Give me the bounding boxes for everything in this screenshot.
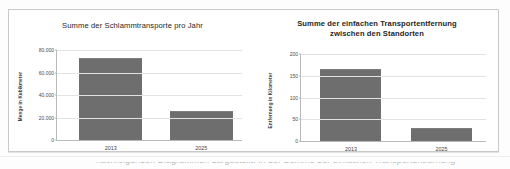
y-axis-tick-label: 200 xyxy=(290,51,298,57)
y-axis-tickmark xyxy=(55,50,57,51)
gridline xyxy=(57,73,242,74)
y-axis-tick-label: 40.000 xyxy=(39,92,54,98)
plot-area-schlammtransporte: 020.00040.00060.00080.00020132025 xyxy=(56,50,242,141)
gridline xyxy=(57,95,242,96)
gridline xyxy=(57,118,242,119)
scan-separator-line xyxy=(0,156,510,157)
bar-2013 xyxy=(320,69,381,141)
gridline xyxy=(301,54,486,55)
gridline xyxy=(57,50,242,51)
y-axis-tickmark xyxy=(55,95,57,96)
x-axis-category-label: 2025 xyxy=(436,146,448,152)
x-axis-category-label: 2013 xyxy=(105,145,117,151)
y-axis-tickmark xyxy=(55,117,57,118)
y-axis-tick-label: 0 xyxy=(295,138,298,144)
y-axis-tickmark xyxy=(299,97,301,98)
y-axis-tickmark xyxy=(299,54,301,55)
charts-row: Summe der Schlammtransporte pro Jahr Men… xyxy=(9,10,498,151)
chart-title-line-1: Summe der Schlammtransporte pro Jahr xyxy=(62,21,203,30)
y-axis-tick-label: 60.000 xyxy=(39,70,54,76)
y-axis-tickmark xyxy=(299,119,301,120)
cutoff-body-text: nachfolgenden Diagrammen dargestellt. In… xyxy=(96,162,506,169)
y-axis-tickmark xyxy=(55,140,57,141)
y-axis-tick-label: 50 xyxy=(292,116,298,122)
y-axis-tick-label: 80.000 xyxy=(39,47,54,53)
chart-title-line-1: Summe der einfachen Transportentfernung xyxy=(297,19,457,28)
y-axis-tickmark xyxy=(55,72,57,73)
chart-transportentfernung: Summe der einfachen Transportentfernung … xyxy=(256,10,498,151)
y-axis-tick-label: 20.000 xyxy=(39,115,54,121)
y-axis-tick-label: 100 xyxy=(290,95,298,101)
y-axis-tickmark xyxy=(299,141,301,142)
y-axis-tickmark xyxy=(299,75,301,76)
gridline xyxy=(301,76,486,77)
plot-area-transportentfernung: 05010015020020132025 xyxy=(300,54,486,142)
x-axis-category-label: 2025 xyxy=(195,145,207,151)
y-axis-title-entfernung: Entfernung in Kilometer xyxy=(267,66,272,136)
x-axis-category-label: 2013 xyxy=(345,146,357,152)
gridline xyxy=(301,98,486,99)
bar-2025 xyxy=(411,128,472,141)
chart-schlammtransporte: Summe der Schlammtransporte pro Jahr Men… xyxy=(9,10,256,151)
charts-figure-frame: Summe der Schlammtransporte pro Jahr Men… xyxy=(8,9,499,152)
chart-title-transportentfernung: Summe der einfachen Transportentfernung … xyxy=(256,19,498,39)
bar-2013 xyxy=(79,58,142,140)
y-axis-title-menge: Menge in Kubikmeter xyxy=(18,62,23,132)
chart-title-schlammtransporte: Summe der Schlammtransporte pro Jahr xyxy=(9,21,256,31)
y-axis-tick-label: 0 xyxy=(51,137,54,143)
bar-2025 xyxy=(170,111,233,140)
y-axis-tick-label: 150 xyxy=(290,73,298,79)
gridline xyxy=(301,119,486,120)
chart-title-line-2: zwischen den Standorten xyxy=(256,29,498,39)
